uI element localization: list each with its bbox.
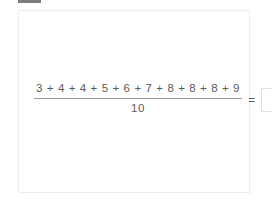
equation-row: 3 + 4 + 4 + 5 + 6 + 7 + 8 + 8 + 8 + 9 10… (34, 83, 272, 114)
fraction-numerator: 3 + 4 + 4 + 5 + 6 + 7 + 8 + 8 + 8 + 9 (34, 83, 242, 98)
fraction-denominator: 10 (34, 99, 242, 115)
fraction: 3 + 4 + 4 + 5 + 6 + 7 + 8 + 8 + 8 + 9 10 (34, 83, 242, 114)
toolbar-nub (18, 0, 41, 3)
answer-input[interactable] (261, 88, 272, 112)
equals-sign: = (247, 94, 256, 106)
exercise-card: 3 + 4 + 4 + 5 + 6 + 7 + 8 + 8 + 8 + 9 10… (18, 10, 250, 193)
